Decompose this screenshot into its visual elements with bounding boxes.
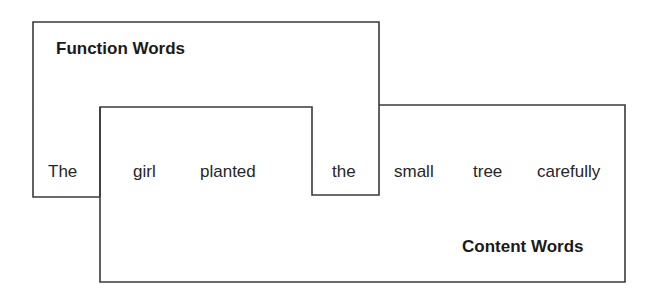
- word-the-function-2: the: [332, 161, 356, 183]
- word-girl-content: girl: [133, 161, 156, 183]
- word-tree-content: tree: [473, 161, 502, 183]
- content-words-label: Content Words: [462, 237, 584, 257]
- word-small-content: small: [394, 161, 434, 183]
- word-carefully-content: carefully: [537, 161, 600, 183]
- word-planted-content: planted: [200, 161, 256, 183]
- function-content-words-diagram: Function Words Content Words The girl pl…: [0, 0, 660, 291]
- word-the-function: The: [48, 161, 77, 183]
- function-words-label: Function Words: [56, 39, 185, 59]
